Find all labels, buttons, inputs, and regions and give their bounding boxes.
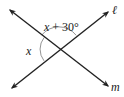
- left-angle-label: x: [25, 44, 32, 58]
- top-angle-label-rest: + 30°: [49, 20, 79, 34]
- line-l-label: ℓ: [112, 3, 117, 17]
- angle-arc-left: [40, 38, 44, 61]
- line-m-label: m: [111, 80, 120, 94]
- top-angle-label: x + 30°: [43, 20, 79, 34]
- intersecting-lines-diagram: ℓ m x + 30° x: [0, 0, 124, 97]
